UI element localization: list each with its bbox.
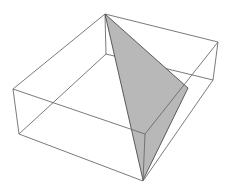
edge-bottom-back-left xyxy=(19,54,106,134)
box-diagram xyxy=(0,0,229,194)
edge-bottom-left-front xyxy=(19,134,143,181)
edge-vertical-left xyxy=(13,89,19,134)
diagram-svg xyxy=(0,0,229,194)
edge-top-left-back xyxy=(13,14,105,89)
edge-vertical-back xyxy=(105,14,106,54)
shaded-triangle xyxy=(105,14,188,180)
